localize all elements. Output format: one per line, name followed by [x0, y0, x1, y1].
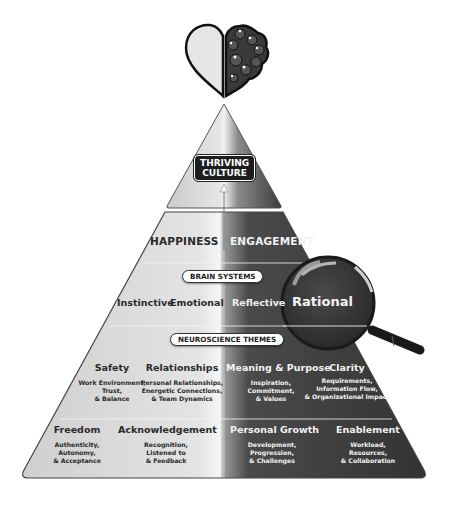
neuroscience-themes-pill: NEUROSCIENCE THEMES	[170, 333, 284, 346]
brain-systems-pill: BRAIN SYSTEMS	[182, 270, 263, 283]
engagement-label: ENGAGEMENT	[230, 235, 314, 247]
theme-personal-growth: Personal Growth Development, Progression…	[230, 424, 314, 465]
happiness-label: HAPPINESS	[150, 235, 219, 247]
theme-clarity: Clarity Requirements, Information Flow, …	[302, 362, 392, 401]
theme-freedom: Freedom Authenticity, Autonomy, & Accept…	[42, 424, 112, 465]
brain-system-instinctive: Instinctive	[117, 297, 174, 308]
theme-enablement: Enablement Workload, Resources, & Collab…	[328, 424, 408, 465]
theme-relationships: Relationships Personal Relationships, En…	[136, 362, 228, 403]
brain-system-reflective: Reflective	[232, 297, 285, 308]
brain-system-rational: Rational	[292, 294, 353, 309]
brain-system-emotional: Emotional	[170, 297, 224, 308]
theme-acknowledgement: Acknowledgement Recognition, Listened to…	[118, 424, 214, 465]
culture-pyramid-diagram: THRIVING CULTURE HAPPINESS ENGAGEMENT BR…	[0, 0, 450, 516]
thriving-culture-badge: THRIVING CULTURE	[194, 155, 255, 181]
heart-brain-icon	[186, 25, 268, 96]
